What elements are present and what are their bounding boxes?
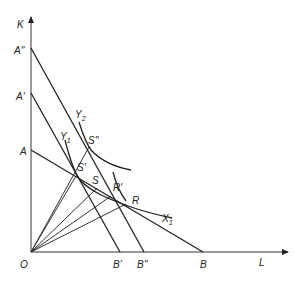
label-r-prime: R' bbox=[113, 182, 123, 193]
isoquant-isocost-diagram: K L O A'' A' A B' B'' B Y2 Y1 X1 S'' S' … bbox=[0, 0, 301, 284]
label-s-prime: S' bbox=[77, 162, 87, 173]
label-s-double-prime: S'' bbox=[88, 135, 100, 146]
label-b-prime: B' bbox=[113, 259, 123, 270]
label-a: A bbox=[19, 146, 27, 157]
label-b-double-prime: B'' bbox=[137, 259, 149, 270]
l-axis-label: L bbox=[259, 257, 265, 268]
origin-label: O bbox=[20, 259, 28, 270]
isocost-line-ab bbox=[31, 150, 203, 252]
label-a-double-prime: A'' bbox=[13, 45, 26, 56]
isoquant-y2 bbox=[79, 122, 131, 170]
label-s: S bbox=[92, 175, 99, 186]
k-axis-label: K bbox=[17, 19, 25, 30]
label-r: R bbox=[132, 195, 139, 206]
label-x1: X1 bbox=[161, 213, 173, 226]
label-y2: Y2 bbox=[75, 109, 86, 122]
label-b: B bbox=[200, 259, 207, 270]
label-a-prime: A' bbox=[15, 91, 26, 102]
